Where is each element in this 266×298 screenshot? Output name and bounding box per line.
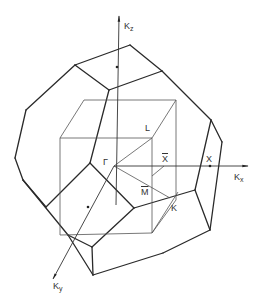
ky-axis-label: Ky	[53, 282, 63, 292]
symmetry-point-dot	[209, 165, 212, 168]
x-bar-point-label: X	[162, 155, 168, 164]
cube-edge	[114, 138, 152, 166]
zone-edge	[195, 190, 210, 230]
kx-axis-label: Kx	[234, 173, 244, 183]
l-point-label: L	[145, 124, 150, 133]
gamma-point-label: Γ	[103, 158, 108, 167]
zone-edge	[90, 90, 109, 163]
zone-edge	[23, 180, 68, 235]
symmetry-point-dot	[87, 206, 90, 209]
outer-zone-edges	[15, 45, 222, 275]
kx-sub: x	[240, 176, 244, 183]
zone-edge	[15, 158, 23, 180]
cube-edge	[60, 100, 84, 138]
zone-edge	[163, 230, 210, 253]
x-point-label: X	[206, 155, 212, 164]
zone-edge	[211, 120, 222, 142]
kz-sub: z	[130, 25, 134, 32]
cube-edge	[152, 100, 176, 138]
brillouin-zone-diagram	[0, 0, 266, 298]
zone-edge	[130, 45, 162, 71]
zone-edge	[162, 71, 211, 120]
zone-edge	[46, 163, 90, 207]
inner-cube-edges	[60, 100, 178, 235]
kz-axis-label: Kz	[124, 22, 134, 32]
zone-edge	[26, 65, 75, 110]
k-point-label: K	[171, 204, 177, 213]
zone-edge	[93, 253, 163, 275]
ky-axis	[53, 166, 114, 279]
zone-edge	[15, 110, 26, 158]
zone-edge	[75, 45, 130, 65]
k-axes	[53, 16, 248, 279]
zone-edge	[92, 208, 134, 247]
symmetry-point-dot	[116, 66, 119, 69]
kz-axis	[116, 16, 119, 205]
cube-edge	[152, 166, 164, 176]
zone-edge	[75, 65, 109, 90]
zone-edge	[109, 71, 162, 90]
ky-sub: y	[59, 285, 63, 292]
m-bar-point-label: M	[141, 188, 149, 197]
zone-edge	[92, 247, 93, 275]
